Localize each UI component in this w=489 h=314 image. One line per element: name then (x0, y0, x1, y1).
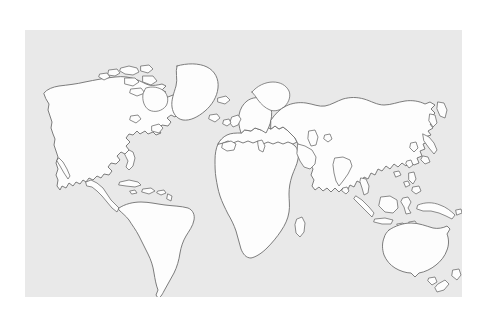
screenshot-root (0, 0, 489, 314)
land-baffin-island (143, 87, 168, 111)
land-java (374, 218, 393, 224)
land-iberia (222, 141, 236, 151)
world-map-svg (25, 30, 462, 297)
world-map-panel (25, 30, 462, 297)
